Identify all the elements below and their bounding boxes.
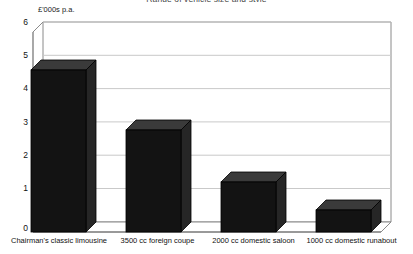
y-tick-label-3: 3	[12, 118, 28, 126]
bar-front-face	[221, 182, 276, 232]
bar-3500-cc-foreign-coupe	[126, 120, 191, 232]
bar-2000-cc-domestic-saloon	[221, 172, 286, 232]
bar-top-face	[316, 200, 381, 210]
bar-side-face	[276, 172, 286, 232]
y-tick-label-0: 0	[12, 224, 28, 232]
y-tick-label-2: 2	[12, 151, 28, 159]
bar-top-face	[221, 172, 286, 182]
y-tick-label-4: 4	[12, 84, 28, 92]
chart-container: Range of vehicle size and style £'000s p…	[0, 0, 413, 254]
y-tick-label-6: 6	[12, 18, 28, 26]
bar-front-face	[31, 70, 86, 232]
bar-1000-cc-domestic-runabout	[316, 200, 381, 232]
plot-area	[0, 0, 413, 254]
bar-side-face	[86, 60, 96, 232]
bar-front-face	[316, 210, 371, 232]
bar-side-face	[181, 120, 191, 232]
bar-top-face	[31, 60, 96, 70]
y-tick-label-1: 1	[12, 184, 28, 192]
x-category-label-3: 1000 cc domestic runabout	[290, 236, 413, 245]
bar-chairmans-classic-limousine	[31, 60, 96, 232]
y-tick-label-5: 5	[12, 51, 28, 59]
bar-front-face	[126, 130, 181, 232]
axis-depth-edge	[33, 22, 43, 32]
bar-top-face	[126, 120, 191, 130]
